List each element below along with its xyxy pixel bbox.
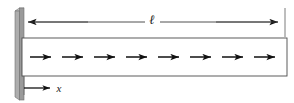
wall-left-face bbox=[15, 11, 20, 100]
figure-canvas: ℓ x bbox=[0, 0, 294, 103]
x-axis: x bbox=[24, 76, 62, 95]
cantilever-beam-figure: ℓ x bbox=[0, 0, 294, 103]
beam-body bbox=[22, 38, 287, 76]
length-dimension: ℓ bbox=[28, 8, 285, 37]
length-label: ℓ bbox=[149, 12, 155, 27]
x-axis-label: x bbox=[56, 82, 62, 94]
